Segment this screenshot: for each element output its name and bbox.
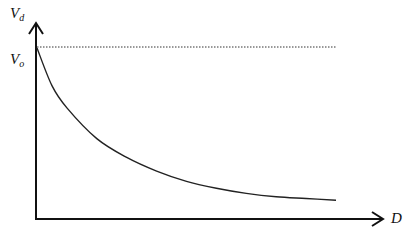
reference-label-vo: Vo: [10, 52, 24, 69]
diagram-canvas: [0, 0, 417, 236]
x-axis-label: D: [391, 211, 402, 226]
decay-curve: [37, 48, 336, 200]
y-axis-label: Vd: [10, 6, 24, 23]
